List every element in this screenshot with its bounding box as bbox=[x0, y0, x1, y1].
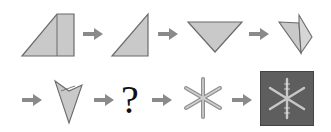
step-8-snowflake-dark-square bbox=[260, 71, 314, 126]
step-4-folded-triangle bbox=[277, 13, 315, 55]
right-arrow-icon bbox=[93, 93, 115, 107]
right-arrow-icon bbox=[151, 93, 173, 107]
step-1-trapezoid bbox=[20, 12, 76, 58]
right-arrow-icon bbox=[21, 93, 43, 107]
step-2-right-triangle bbox=[110, 12, 152, 58]
right-arrow-icon bbox=[157, 27, 179, 41]
step-5-folded-v-shape bbox=[53, 79, 85, 125]
step-3-inverted-triangle bbox=[186, 20, 244, 54]
right-arrow-icon bbox=[248, 27, 270, 41]
right-arrow-icon bbox=[82, 27, 104, 41]
right-arrow-icon bbox=[231, 93, 253, 107]
question-mark: ? bbox=[121, 80, 139, 120]
step-7-snowflake-icon bbox=[182, 76, 224, 120]
